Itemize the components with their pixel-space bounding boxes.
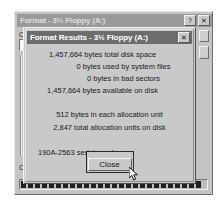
close-button-focus-ring: Close (86, 151, 134, 173)
help-icon[interactable]: ? (184, 15, 196, 26)
close-icon[interactable]: ✕ (198, 15, 210, 26)
dialog-button-row: Close (28, 151, 191, 173)
disk-space-stats: 1,457,664 bytes total disk space 0 bytes… (28, 49, 191, 96)
format-window-titlebar-buttons: ? ✕ (184, 15, 210, 26)
dialog-title: Format Results - 3½ Floppy (A:) (27, 33, 148, 42)
capacity-dropdown-arrow[interactable] (199, 30, 209, 42)
dialog-titlebar[interactable]: Format Results - 3½ Floppy (A:) ✕ (27, 31, 192, 44)
format-window-titlebar[interactable]: Format - 3½ Floppy (A:) ? ✕ (17, 14, 212, 27)
stat-bytes-available-on-disk: 1,457,664 bytes available on disk (28, 85, 191, 96)
stat-total-disk-space: 1,457,664 bytes total disk space (28, 49, 191, 60)
allocation-stats: 512 bytes in each allocation unit 2,847 … (28, 109, 191, 133)
dialog-body: 1,457,664 bytes total disk space 0 bytes… (28, 47, 191, 179)
progress-segment (196, 181, 201, 188)
close-button[interactable]: Close (88, 158, 132, 171)
close-icon[interactable]: ✕ (178, 32, 190, 43)
screen: Format - 3½ Floppy (A:) ? ✕ C C (0, 0, 220, 211)
stat-bytes-per-allocation-unit: 512 bytes in each allocation unit (28, 109, 191, 120)
format-window-title: Format - 3½ Floppy (A:) (17, 16, 105, 25)
format-type-dropdown-arrow[interactable] (199, 46, 209, 59)
format-options-group-divider (20, 56, 22, 156)
stat-bytes-used-by-system-files: 0 bytes used by system files (28, 61, 191, 72)
format-results-dialog: Format Results - 3½ Floppy (A:) ✕ 1,457,… (23, 27, 196, 184)
stat-total-allocation-units: 2,847 total allocation units on disk (28, 122, 191, 133)
stat-bytes-in-bad-sectors: 0 bytes in bad sectors (28, 73, 191, 84)
